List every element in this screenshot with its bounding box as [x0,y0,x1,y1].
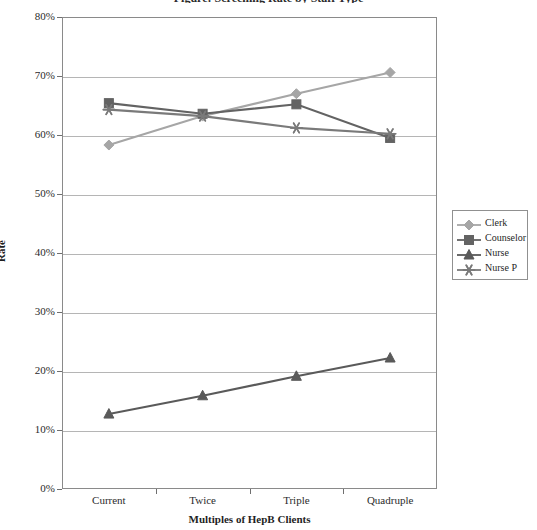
legend-item-nurse-p[interactable]: Nurse P [456,260,524,275]
nurse-marker-icon [456,247,482,259]
y-tick-label: 60% [13,129,55,140]
y-tick-mark [57,489,62,490]
y-tick-label: 40% [13,247,55,258]
legend-item-nurse[interactable]: Nurse [456,245,524,260]
legend-item-clerk[interactable]: Clerk [456,215,524,230]
clerk-marker-icon [456,217,482,229]
legend-label: Nurse [482,247,509,258]
gridline [63,77,436,78]
gridline [63,431,436,432]
line-chart: Figure: Screening Rate by Staff Type Rat… [0,0,537,530]
chart-title: Figure: Screening Rate by Staff Type [0,0,537,3]
gridline [63,136,436,137]
nurse-p-marker-icon [456,262,482,274]
legend-label: Nurse P [482,262,517,273]
y-axis-title: Rate [0,240,7,262]
x-tick-label: Quadruple [335,494,445,507]
y-tick-label: 50% [13,188,55,199]
y-tick-label: 70% [13,70,55,81]
gridline [63,195,436,196]
y-tick-label: 30% [13,306,55,317]
y-tick-label: 10% [13,424,55,435]
chart-legend: Clerk Counselor Nurse Nurse P [452,210,528,280]
plot-area [62,17,437,489]
gridline [63,313,436,314]
counselor-marker-icon [456,232,482,244]
legend-item-counselor[interactable]: Counselor [456,230,524,245]
legend-label: Clerk [482,217,507,228]
x-axis-title: Multiples of HepB Clients [62,513,437,525]
gridline [63,254,436,255]
legend-label: Counselor [482,232,526,243]
gridline [63,372,436,373]
y-tick-label: 80% [13,11,55,22]
y-tick-label: 0% [13,483,55,494]
y-tick-label: 20% [13,365,55,376]
